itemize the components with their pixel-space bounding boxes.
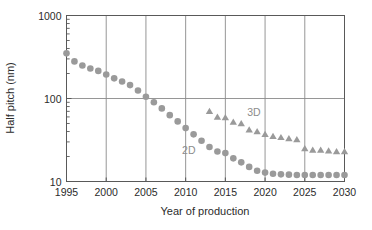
data-point xyxy=(222,150,229,157)
data-point xyxy=(166,112,173,119)
data-point xyxy=(230,119,237,125)
ytick-label-1000: 1000 xyxy=(38,10,62,22)
xtick-label-2000: 2000 xyxy=(95,186,119,198)
xtick-label-2030: 2030 xyxy=(333,186,357,198)
data-point xyxy=(262,169,269,176)
data-point xyxy=(206,108,213,114)
series-3d xyxy=(206,108,348,154)
y-axis-label: Half pitch (nm) xyxy=(4,62,16,134)
data-point xyxy=(293,136,300,142)
data-point xyxy=(285,135,292,141)
data-point xyxy=(301,172,308,179)
data-point xyxy=(87,65,94,72)
data-point xyxy=(309,172,316,179)
data-point xyxy=(182,125,189,132)
data-point xyxy=(119,78,126,85)
data-point xyxy=(317,172,324,179)
data-point xyxy=(246,126,253,132)
data-point xyxy=(230,155,237,162)
x-axis-label: Year of production xyxy=(161,205,250,217)
data-point xyxy=(159,105,166,112)
chart-figure: 1995200020052010201520202025203010100100… xyxy=(0,0,372,230)
data-point xyxy=(238,159,245,166)
data-point xyxy=(333,148,340,154)
data-point xyxy=(214,113,221,119)
data-point xyxy=(135,87,142,94)
ytick-label-100: 100 xyxy=(44,93,62,105)
ytick-label-10: 10 xyxy=(50,176,62,188)
data-point xyxy=(111,75,118,82)
data-point xyxy=(206,144,213,151)
data-point xyxy=(286,171,293,178)
data-point xyxy=(174,118,181,125)
data-point xyxy=(277,134,284,140)
xtick-label-2025: 2025 xyxy=(293,186,317,198)
xtick-label-2020: 2020 xyxy=(253,186,277,198)
data-point xyxy=(261,131,268,137)
xtick-label-2010: 2010 xyxy=(174,186,198,198)
annotation-2d: 2D xyxy=(182,144,196,156)
data-point xyxy=(270,170,277,177)
data-point xyxy=(278,171,285,178)
data-point xyxy=(301,145,308,151)
annotation-3d: 3D xyxy=(247,106,261,118)
data-point xyxy=(151,99,158,106)
data-point xyxy=(63,50,70,57)
data-point xyxy=(253,128,260,134)
data-point xyxy=(127,82,134,89)
data-point xyxy=(143,93,150,100)
data-point xyxy=(341,172,348,179)
data-point xyxy=(325,172,332,179)
data-point xyxy=(79,62,86,69)
data-point xyxy=(71,58,78,65)
axis-tick-labels: 1995200020052010201520202025203010100100… xyxy=(38,10,356,198)
data-point xyxy=(294,172,301,179)
data-point xyxy=(254,167,261,174)
data-point xyxy=(198,137,205,144)
data-point xyxy=(317,146,324,152)
data-point xyxy=(190,131,197,138)
data-point xyxy=(214,148,221,155)
data-point xyxy=(103,71,110,78)
data-point xyxy=(246,164,253,171)
data-point xyxy=(333,172,340,179)
xtick-label-2015: 2015 xyxy=(214,186,238,198)
grid-layer xyxy=(67,16,345,182)
data-point xyxy=(309,146,316,152)
half-pitch-scatter-chart: 1995200020052010201520202025203010100100… xyxy=(0,0,372,230)
data-point xyxy=(238,120,245,126)
data-point xyxy=(341,148,348,154)
data-point xyxy=(95,68,102,75)
data-point xyxy=(325,147,332,153)
data-point xyxy=(222,114,229,120)
data-point xyxy=(269,133,276,139)
xtick-label-2005: 2005 xyxy=(134,186,158,198)
